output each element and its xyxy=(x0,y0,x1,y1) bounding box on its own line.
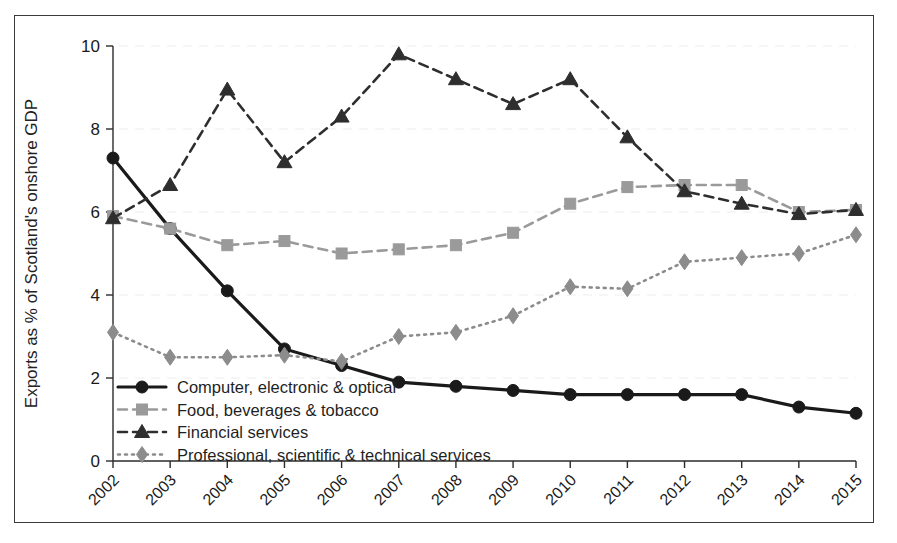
x-tick-label: 2002 xyxy=(85,471,122,508)
marker-circle xyxy=(136,381,148,393)
y-tick-label: 8 xyxy=(91,120,100,139)
marker-triangle xyxy=(563,72,578,85)
marker-diamond xyxy=(222,349,233,365)
y-tick-label: 0 xyxy=(91,452,100,471)
y-tick-label: 10 xyxy=(81,37,100,56)
marker-square xyxy=(565,198,576,209)
series-line xyxy=(113,54,856,218)
series-4 xyxy=(108,227,862,370)
x-tick-label: 2013 xyxy=(714,471,751,508)
marker-diamond xyxy=(108,324,119,340)
marker-circle xyxy=(793,401,805,413)
marker-circle xyxy=(107,152,119,164)
x-axis: 2002200320042005200620072008200920102011… xyxy=(85,461,865,508)
x-tick-label: 2010 xyxy=(542,471,579,508)
marker-square xyxy=(622,182,633,193)
x-tick-label: 2007 xyxy=(371,471,408,508)
marker-diamond xyxy=(622,281,633,297)
marker-diamond xyxy=(736,250,747,266)
marker-circle xyxy=(621,389,633,401)
legend-label-4: Professional, scientific & technical ser… xyxy=(177,446,491,464)
y-axis: 0246810 xyxy=(81,37,113,471)
y-tick-label: 4 xyxy=(91,286,100,305)
series-2 xyxy=(108,180,862,259)
marker-square xyxy=(450,240,461,251)
marker-diamond xyxy=(793,246,804,262)
chart-figure: 0246810Exports as % of Scotland's onshor… xyxy=(0,0,897,543)
x-tick-label: 2008 xyxy=(428,471,465,508)
marker-square xyxy=(736,180,747,191)
marker-square xyxy=(508,227,519,238)
marker-triangle xyxy=(220,82,235,95)
marker-diamond xyxy=(679,254,690,270)
marker-circle xyxy=(564,389,576,401)
marker-triangle xyxy=(620,130,635,143)
marker-triangle xyxy=(391,47,406,60)
marker-diamond xyxy=(565,279,576,295)
series-3 xyxy=(106,47,864,224)
marker-diamond xyxy=(137,447,148,463)
marker-diamond xyxy=(393,329,404,345)
marker-square xyxy=(336,248,347,259)
marker-square xyxy=(222,240,233,251)
marker-circle xyxy=(221,285,233,297)
x-tick-label: 2015 xyxy=(828,471,865,508)
x-tick-label: 2011 xyxy=(600,471,636,507)
marker-square xyxy=(165,223,176,234)
marker-square xyxy=(137,404,148,415)
x-tick-label: 2004 xyxy=(199,471,236,508)
marker-square xyxy=(279,236,290,247)
y-axis-title: Exports as % of Scotland's onshore GDP xyxy=(22,99,41,408)
line-chart-canvas: 0246810Exports as % of Scotland's onshor… xyxy=(0,0,897,543)
marker-diamond xyxy=(851,227,862,243)
marker-square xyxy=(393,244,404,255)
legend-label-1: Computer, electronic & optical xyxy=(177,378,396,396)
marker-circle xyxy=(679,389,691,401)
x-tick-label: 2006 xyxy=(314,471,351,508)
marker-circle xyxy=(736,389,748,401)
marker-circle xyxy=(507,384,519,396)
marker-circle xyxy=(450,380,462,392)
x-tick-label: 2014 xyxy=(771,471,808,508)
x-tick-label: 2003 xyxy=(142,471,179,508)
x-tick-label: 2012 xyxy=(656,471,693,508)
legend-label-3: Financial services xyxy=(177,423,308,441)
marker-triangle xyxy=(163,178,178,191)
gridlines xyxy=(119,46,856,378)
legend: Computer, electronic & opticalFood, beve… xyxy=(118,378,491,464)
marker-diamond xyxy=(450,324,461,340)
marker-circle xyxy=(850,407,862,419)
x-tick-label: 2009 xyxy=(485,471,522,508)
legend-label-2: Food, beverages & tobacco xyxy=(177,401,379,419)
x-tick-label: 2005 xyxy=(256,471,293,508)
marker-diamond xyxy=(508,308,519,324)
marker-diamond xyxy=(165,349,176,365)
y-tick-label: 2 xyxy=(91,369,100,388)
y-tick-label: 6 xyxy=(91,203,100,222)
